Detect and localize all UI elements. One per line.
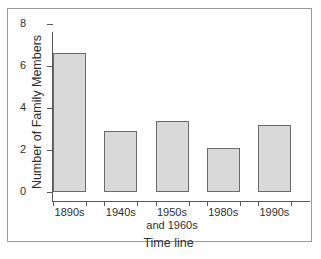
bar xyxy=(104,131,137,192)
y-tick-mark xyxy=(47,24,53,25)
y-tick-mark xyxy=(47,150,53,151)
y-tick-mark xyxy=(47,192,53,193)
bar xyxy=(258,125,291,192)
x-tick-label: 1990s xyxy=(239,206,309,219)
y-tick-label: 0 xyxy=(0,186,26,197)
x-axis-line xyxy=(52,201,310,202)
x-tick-label-line2: and 1960s xyxy=(137,219,207,232)
figure: 02468 1890s1940s1950sand 1960s1980s1990s… xyxy=(0,0,321,259)
y-tick-mark xyxy=(47,108,53,109)
y-tick-label: 8 xyxy=(0,18,26,29)
figure-caption xyxy=(12,248,252,259)
y-tick-mark xyxy=(47,66,53,67)
bar xyxy=(207,148,240,192)
y-tick-label: 4 xyxy=(0,102,26,113)
y-tick-label: 6 xyxy=(0,60,26,71)
chart-frame: 02468 1890s1940s1950sand 1960s1980s1990s… xyxy=(7,8,312,242)
bar xyxy=(156,121,189,192)
y-tick-label: 2 xyxy=(0,144,26,155)
y-axis-title: Number of Family Members xyxy=(30,27,44,197)
bar xyxy=(53,53,86,192)
